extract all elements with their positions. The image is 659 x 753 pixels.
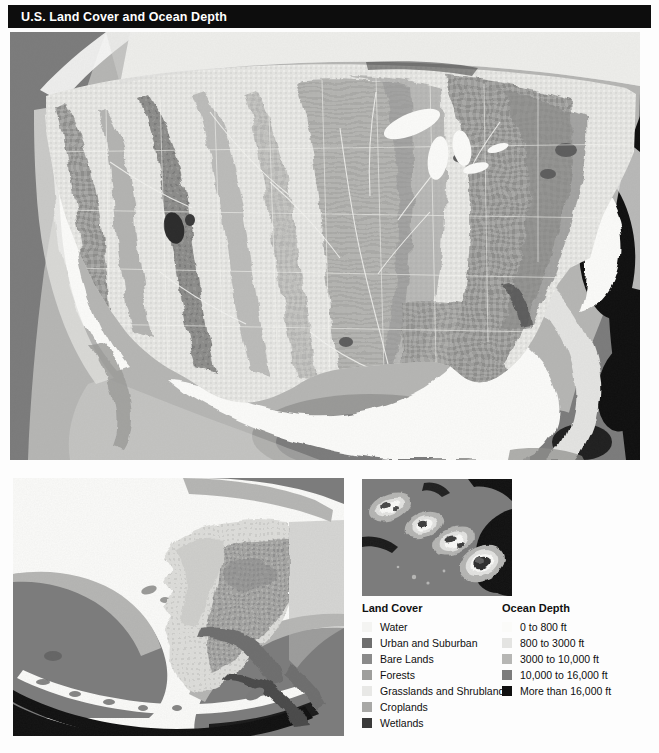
legend-swatch-bare-lands bbox=[362, 654, 372, 664]
legend-label-water: Water bbox=[380, 621, 408, 633]
legend-swatch-water bbox=[362, 622, 372, 632]
legend-swatch-croplands bbox=[362, 702, 372, 712]
legend-item-bare-lands: Bare Lands bbox=[362, 651, 512, 667]
legend-land-cover: Land Cover Water Urban and Suburban Bare… bbox=[362, 602, 512, 731]
legend-item-croplands: Croplands bbox=[362, 699, 512, 715]
legend-label-depth-more-than-16000: More than 16,000 ft bbox=[520, 685, 611, 697]
legend-land-cover-title: Land Cover bbox=[362, 602, 512, 614]
legend-item-depth-0-800: 0 to 800 ft bbox=[502, 619, 652, 635]
hawaii-inset-map bbox=[362, 479, 512, 596]
conterminous-us-map bbox=[10, 32, 640, 460]
legend-item-depth-more-than-16000: More than 16,000 ft bbox=[502, 683, 652, 699]
legend-swatch-depth-800-3000 bbox=[502, 638, 512, 648]
legend-swatch-forests bbox=[362, 670, 372, 680]
legend-item-depth-10000-16000: 10,000 to 16,000 ft bbox=[502, 667, 652, 683]
legend-item-forests: Forests bbox=[362, 667, 512, 683]
legend-item-water: Water bbox=[362, 619, 512, 635]
legend-label-bare-lands: Bare Lands bbox=[380, 653, 434, 665]
map-legend: Land Cover Water Urban and Suburban Bare… bbox=[362, 602, 652, 732]
legend-label-wetlands: Wetlands bbox=[380, 717, 424, 729]
legend-swatch-depth-more-than-16000 bbox=[502, 686, 512, 696]
legend-label-depth-0-800: 0 to 800 ft bbox=[520, 621, 567, 633]
hawaii-map-graphic bbox=[362, 479, 512, 596]
legend-ocean-depth: Ocean Depth 0 to 800 ft 800 to 3000 ft 3… bbox=[502, 602, 652, 699]
legend-item-grasslands-and-shrublands: Grasslands and Shrublands bbox=[362, 683, 512, 699]
legend-label-depth-800-3000: 800 to 3000 ft bbox=[520, 637, 584, 649]
alaska-map-graphic bbox=[13, 478, 344, 736]
legend-swatch-depth-0-800 bbox=[502, 622, 512, 632]
legend-label-depth-3000-10000: 3000 to 10,000 ft bbox=[520, 653, 599, 665]
legend-item-depth-800-3000: 800 to 3000 ft bbox=[502, 635, 652, 651]
legend-swatch-depth-10000-16000 bbox=[502, 670, 512, 680]
legend-swatch-grasslands-and-shrublands bbox=[362, 686, 372, 696]
hawaii-grain-overlay bbox=[362, 479, 512, 596]
alaska-inset-map bbox=[13, 478, 344, 736]
legend-label-urban-and-suburban: Urban and Suburban bbox=[380, 637, 478, 649]
conus-map-graphic bbox=[10, 32, 640, 460]
legend-label-croplands: Croplands bbox=[380, 701, 428, 713]
raster-grain-overlay bbox=[10, 32, 640, 460]
legend-swatch-urban-and-suburban bbox=[362, 638, 372, 648]
legend-label-grasslands-and-shrublands: Grasslands and Shrublands bbox=[380, 685, 510, 697]
legend-ocean-depth-title: Ocean Depth bbox=[502, 602, 652, 614]
legend-label-depth-10000-16000: 10,000 to 16,000 ft bbox=[520, 669, 608, 681]
legend-swatch-depth-3000-10000 bbox=[502, 654, 512, 664]
alaska-grain-overlay bbox=[13, 478, 344, 736]
legend-item-urban-and-suburban: Urban and Suburban bbox=[362, 635, 512, 651]
legend-item-depth-3000-10000: 3000 to 10,000 ft bbox=[502, 651, 652, 667]
legend-label-forests: Forests bbox=[380, 669, 415, 681]
legend-swatch-wetlands bbox=[362, 718, 372, 728]
page-title-bar: U.S. Land Cover and Ocean Depth bbox=[8, 5, 651, 28]
page-title: U.S. Land Cover and Ocean Depth bbox=[8, 10, 227, 24]
legend-item-wetlands: Wetlands bbox=[362, 715, 512, 731]
